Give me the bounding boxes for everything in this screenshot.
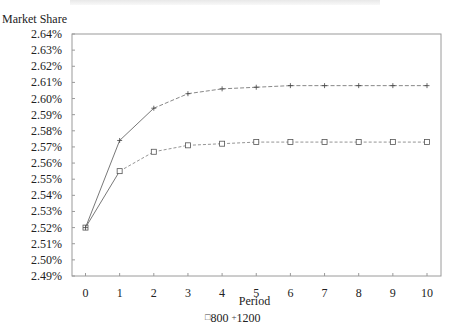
y-tick-label: 2.54% bbox=[31, 188, 62, 202]
series-800 bbox=[83, 140, 430, 231]
plus-marker-icon bbox=[390, 83, 395, 88]
square-marker-icon bbox=[322, 140, 327, 145]
legend-800: 800 bbox=[210, 311, 228, 325]
plus-marker-icon bbox=[254, 85, 259, 90]
y-tick-label: 2.52% bbox=[31, 221, 62, 235]
y-tick-label: 2.62% bbox=[31, 59, 62, 73]
y-tick-label: 2.53% bbox=[31, 204, 62, 218]
square-marker-icon bbox=[356, 140, 361, 145]
square-marker-icon bbox=[254, 140, 259, 145]
square-marker-icon bbox=[390, 140, 395, 145]
plus-marker-icon bbox=[185, 91, 190, 96]
square-marker-icon bbox=[288, 140, 293, 145]
y-tick-label: 2.49% bbox=[31, 269, 62, 283]
plus-marker-icon bbox=[425, 83, 430, 88]
y-tick-label: 2.56% bbox=[31, 156, 62, 170]
square-marker-icon bbox=[151, 149, 156, 154]
square-marker-icon bbox=[117, 169, 122, 174]
y-tick-label: 2.55% bbox=[31, 172, 62, 186]
y-tick-label: 2.50% bbox=[31, 253, 62, 267]
legend-1200: 1200 bbox=[237, 311, 261, 325]
plus-marker-icon bbox=[322, 83, 327, 88]
square-marker-icon bbox=[185, 143, 190, 148]
y-tick-label: 2.64% bbox=[31, 27, 62, 41]
plus-marker-icon bbox=[220, 86, 225, 91]
y-tick-label: 2.63% bbox=[31, 43, 62, 57]
y-tick-label: 2.57% bbox=[31, 140, 62, 154]
y-tick-label: 2.51% bbox=[31, 237, 62, 251]
x-axis-label: Period bbox=[0, 294, 453, 309]
plus-marker-icon bbox=[356, 83, 361, 88]
square-marker-icon bbox=[220, 141, 225, 146]
series-1200 bbox=[83, 83, 430, 230]
square-marker-icon bbox=[425, 140, 430, 145]
y-tick-label: 2.60% bbox=[31, 92, 62, 106]
y-tick-label: 2.58% bbox=[31, 124, 62, 138]
legend: □800 +1200 bbox=[205, 311, 261, 326]
line-chart: 2.49%2.50%2.51%2.52%2.53%2.54%2.55%2.56%… bbox=[0, 0, 453, 336]
plot-area bbox=[72, 34, 441, 276]
y-tick-label: 2.59% bbox=[31, 108, 62, 122]
y-tick-label: 2.61% bbox=[31, 75, 62, 89]
plus-marker-icon bbox=[288, 83, 293, 88]
